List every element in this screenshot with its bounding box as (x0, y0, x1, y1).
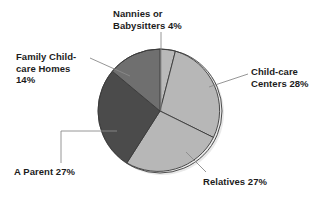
pie-label-relatives: Relatives 27% (203, 176, 303, 188)
pie-chart-figure: Nannies or Babysitters 4% Child-care Cen… (0, 0, 331, 200)
leader-line-centers (209, 74, 248, 87)
pie-label-child-care-centers: Child-care Centers 28% (251, 66, 329, 89)
pie-label-family-child-care-homes: Family Child- care Homes 14% (16, 51, 102, 86)
pie-label-a-parent: A Parent 27% (14, 166, 114, 178)
pie-label-nannies: Nannies or Babysitters 4% (113, 8, 209, 31)
